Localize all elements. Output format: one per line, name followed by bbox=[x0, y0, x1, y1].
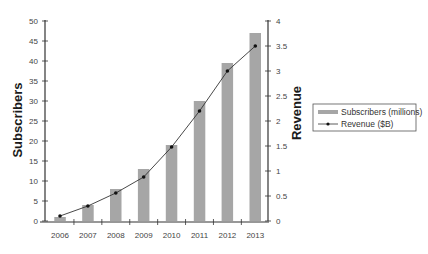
revenue-point-2008 bbox=[114, 191, 118, 195]
legend-bar-swatch bbox=[318, 110, 338, 114]
x-axis: 20062007200820092010201120122013 bbox=[40, 219, 269, 240]
right-tick-label: 3 bbox=[276, 67, 281, 76]
right-tick-label: 0 bbox=[276, 217, 281, 226]
left-tick-label: 20 bbox=[29, 137, 38, 146]
left-tick-label: 40 bbox=[29, 57, 38, 66]
x-tick-label: 2013 bbox=[246, 231, 264, 240]
left-tick-label: 30 bbox=[29, 97, 38, 106]
x-tick-label: 2010 bbox=[163, 231, 181, 240]
bar-2013 bbox=[250, 33, 262, 221]
legend: Subscribers (millions) Revenue ($B) bbox=[313, 104, 422, 131]
right-y-axis: 00.511.522.533.54 bbox=[265, 17, 288, 226]
revenue-point-2007 bbox=[86, 204, 90, 208]
right-tick-label: 4 bbox=[276, 17, 281, 26]
revenue-point-2006 bbox=[58, 214, 62, 218]
left-tick-label: 50 bbox=[29, 17, 38, 26]
revenue-point-2013 bbox=[254, 44, 258, 48]
right-tick-label: 3.5 bbox=[276, 42, 288, 51]
left-axis-title: Subscribers bbox=[10, 82, 25, 157]
left-y-axis: 05101520253035404550 bbox=[29, 17, 48, 226]
legend-label-subscribers: Subscribers (millions) bbox=[341, 107, 422, 117]
left-tick-label: 0 bbox=[34, 217, 39, 226]
left-tick-label: 45 bbox=[29, 37, 38, 46]
chart-canvas: 05101520253035404550 00.511.522.533.54 2… bbox=[0, 0, 428, 254]
bar-2011 bbox=[194, 101, 206, 221]
revenue-point-2010 bbox=[170, 145, 174, 149]
right-tick-label: 0.5 bbox=[276, 192, 288, 201]
legend-label-revenue: Revenue ($B) bbox=[341, 119, 394, 129]
bar-2012 bbox=[222, 63, 234, 221]
revenue-point-2012 bbox=[226, 69, 230, 73]
left-tick-label: 35 bbox=[29, 77, 38, 86]
revenue-point-2009 bbox=[142, 175, 146, 179]
left-tick-label: 5 bbox=[34, 197, 39, 206]
x-tick-label: 2007 bbox=[79, 231, 97, 240]
left-tick-label: 15 bbox=[29, 157, 38, 166]
bar-2010 bbox=[166, 145, 178, 221]
legend-marker-icon bbox=[326, 122, 329, 125]
revenue-point-2011 bbox=[198, 109, 202, 113]
right-tick-label: 2.5 bbox=[276, 92, 288, 101]
x-tick-label: 2006 bbox=[51, 231, 69, 240]
x-tick-label: 2008 bbox=[107, 231, 125, 240]
left-tick-label: 10 bbox=[29, 177, 38, 186]
x-tick-label: 2012 bbox=[219, 231, 237, 240]
x-tick-label: 2009 bbox=[135, 231, 153, 240]
subscribers-bars bbox=[54, 33, 261, 221]
right-tick-label: 2 bbox=[276, 117, 281, 126]
right-axis-title: Revenue bbox=[289, 86, 304, 140]
right-tick-label: 1 bbox=[276, 167, 281, 176]
left-tick-label: 25 bbox=[29, 117, 38, 126]
right-tick-label: 1.5 bbox=[276, 142, 288, 151]
x-tick-label: 2011 bbox=[191, 231, 209, 240]
